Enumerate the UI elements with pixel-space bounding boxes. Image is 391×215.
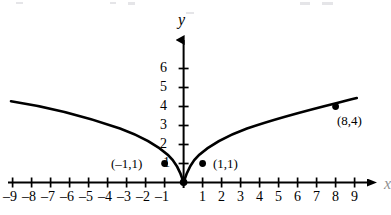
point-label-neg1-1: (–1,1) (111, 157, 142, 170)
x-tick-label-9: 9 (351, 190, 358, 204)
x-tick-label-neg7: –7 (41, 190, 55, 204)
x-tick-label-neg6: –6 (60, 190, 74, 204)
x-tick-label-5: 5 (275, 190, 282, 204)
x-tick-label-neg1: –1 (155, 190, 169, 204)
y-axis-label: y (178, 12, 185, 28)
point-label-8-4: (8,4) (337, 114, 362, 127)
x-tick-label-neg5: –5 (79, 190, 93, 204)
y-tick-label-5: 5 (160, 80, 167, 94)
data-point-8-4 (332, 103, 339, 110)
x-axis (8, 178, 368, 188)
x-tick-label-neg9: –9 (3, 190, 17, 204)
y-tick-label-6: 6 (160, 61, 167, 75)
point-label-1-1: (1,1) (213, 157, 238, 170)
x-tick-label-8: 8 (332, 190, 339, 204)
y-tick-label-3: 3 (160, 118, 167, 132)
y-axis (179, 40, 189, 188)
x-tick-label-neg8: –8 (22, 190, 36, 204)
x-tick-label-7: 7 (313, 190, 320, 204)
x-tick-label-4: 4 (256, 190, 263, 204)
data-point-1-1 (199, 160, 206, 167)
x-tick-label-6: 6 (294, 190, 301, 204)
x-tick-label-neg4: –4 (98, 190, 112, 204)
y-tick-label-4: 4 (160, 99, 167, 113)
y-tick-label-1: 1 (163, 156, 170, 170)
x-tick-label-neg3: –3 (117, 190, 131, 204)
x-tick-label-1: 1 (199, 190, 206, 204)
x-tick-label-2: 2 (218, 190, 225, 204)
x-tick-label-neg2: –2 (136, 190, 150, 204)
x-tick-label-3: 3 (237, 190, 244, 204)
y-tick-label-2: 2 (160, 137, 167, 151)
x-axis-label: x (384, 176, 391, 192)
data-point-origin (180, 179, 188, 187)
